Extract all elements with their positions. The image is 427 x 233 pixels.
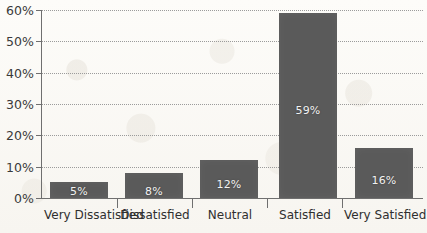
gridline-50 xyxy=(41,41,423,42)
xlabel-very-satisfied: Very Satisfied xyxy=(344,208,424,222)
gridline-20 xyxy=(41,135,423,136)
ylabel-40: 40% xyxy=(0,66,34,81)
ylabel-50: 50% xyxy=(0,34,34,49)
gridline-40 xyxy=(41,73,423,74)
bar-value-neutral: 12% xyxy=(200,178,258,191)
y-axis-line xyxy=(41,10,42,199)
chart-title-remnant: · xyxy=(0,0,427,2)
ylabel-60: 60% xyxy=(0,3,34,18)
bar-very-satisfied[interactable] xyxy=(355,148,413,198)
x-axis-line xyxy=(41,198,423,199)
bar-value-satisfied: 59% xyxy=(279,104,337,117)
bar-value-very-dissatisfied: 5% xyxy=(50,185,108,198)
xlabel-dissatisfied: Dissatisfied xyxy=(119,208,191,222)
bar-value-very-satisfied: 16% xyxy=(355,174,413,187)
bar-chart: · 60% 50% 40% 30% 20% 10% 0% 5% 8% 12% 5… xyxy=(0,0,427,233)
xtick-sep-1 xyxy=(117,199,118,208)
ylabel-0: 0% xyxy=(0,191,34,206)
xtick-sep-4 xyxy=(342,199,343,208)
xtick-sep-3 xyxy=(267,199,268,208)
ylabel-30: 30% xyxy=(0,97,34,112)
ylabel-10: 10% xyxy=(0,160,34,175)
ylabel-20: 20% xyxy=(0,128,34,143)
gridline-30 xyxy=(41,104,423,105)
xtick-sep-2 xyxy=(192,199,193,208)
xlabel-neutral: Neutral xyxy=(194,208,266,222)
gridline-60 xyxy=(41,10,423,11)
xlabel-satisfied: Satisfied xyxy=(269,208,341,222)
bar-value-dissatisfied: 8% xyxy=(125,185,183,198)
xlabel-very-dissatisfied: Very Dissatisfied xyxy=(44,208,114,222)
